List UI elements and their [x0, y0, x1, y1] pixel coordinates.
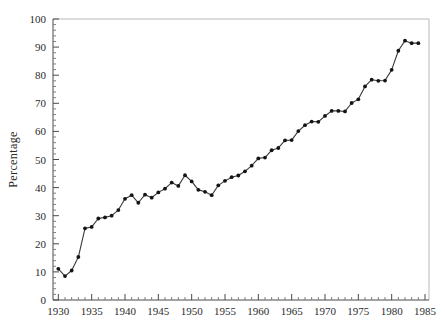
data-point	[210, 193, 214, 197]
data-point	[336, 109, 340, 113]
plot-frame	[53, 19, 429, 300]
y-tick-label: 20	[35, 238, 47, 250]
data-point	[143, 193, 147, 197]
y-tick-label: 10	[35, 266, 47, 278]
plot-background	[53, 19, 429, 300]
data-point	[156, 190, 160, 194]
data-point	[303, 123, 307, 127]
data-point	[356, 97, 360, 101]
data-point	[290, 138, 294, 142]
data-point	[163, 187, 167, 191]
data-point	[243, 169, 247, 173]
data-point	[403, 39, 407, 43]
data-point	[56, 267, 60, 271]
data-point	[376, 79, 380, 83]
data-point	[170, 181, 174, 185]
chart-canvas: 0102030405060708090100 19301935194019451…	[0, 0, 445, 330]
data-point	[103, 215, 107, 219]
y-tick-label: 50	[35, 154, 47, 166]
x-tick-label: 1960	[247, 305, 270, 317]
x-tick-label: 1980	[381, 305, 404, 317]
y-tick-label: 80	[35, 69, 47, 81]
data-point	[263, 156, 267, 160]
data-point	[130, 193, 134, 197]
data-point	[196, 188, 200, 192]
data-point	[396, 49, 400, 53]
data-point	[410, 41, 414, 45]
data-point	[310, 120, 314, 124]
y-tick-label: 90	[35, 41, 47, 53]
x-tick-label: 1970	[314, 305, 337, 317]
data-point	[296, 129, 300, 133]
x-tick-label: 1935	[81, 305, 104, 317]
y-tick-label: 30	[35, 210, 47, 222]
y-tick-label: 100	[30, 13, 47, 25]
data-point	[96, 217, 100, 221]
data-point	[330, 109, 334, 113]
data-point	[283, 138, 287, 142]
data-point	[83, 226, 87, 230]
data-point	[70, 269, 74, 273]
data-point	[316, 120, 320, 124]
y-tick-label: 0	[41, 294, 47, 306]
data-point	[270, 148, 274, 152]
x-tick-label: 1950	[181, 305, 204, 317]
data-point	[256, 156, 260, 160]
x-tick-label: 1965	[281, 305, 304, 317]
data-point	[136, 201, 140, 205]
data-point	[90, 225, 94, 229]
data-point	[350, 101, 354, 105]
data-point	[250, 164, 254, 168]
x-tick-label: 1940	[114, 305, 137, 317]
data-point	[323, 114, 327, 118]
x-tick-label: 1955	[214, 305, 237, 317]
y-axis-title: Percentage	[6, 131, 20, 188]
data-point	[110, 214, 114, 218]
x-tick-label: 1985	[414, 305, 437, 317]
line-chart-figure: 0102030405060708090100 19301935194019451…	[0, 0, 445, 330]
data-point	[390, 68, 394, 72]
data-point	[203, 190, 207, 194]
data-point	[176, 184, 180, 188]
data-point	[416, 41, 420, 45]
data-point	[76, 255, 80, 259]
data-point	[236, 174, 240, 178]
data-point	[63, 274, 67, 278]
x-tick-label: 1945	[147, 305, 170, 317]
data-point	[216, 183, 220, 187]
x-tick-label: 1975	[347, 305, 370, 317]
y-tick-label: 70	[35, 97, 47, 109]
y-tick-label: 60	[35, 125, 47, 137]
data-point	[123, 197, 127, 201]
y-tick-label: 40	[35, 182, 47, 194]
data-point	[383, 79, 387, 83]
x-tick-label: 1930	[47, 305, 70, 317]
data-point	[343, 110, 347, 114]
data-point	[276, 146, 280, 150]
data-point	[116, 208, 120, 212]
data-point	[363, 85, 367, 89]
data-point	[230, 175, 234, 179]
data-point	[370, 78, 374, 82]
data-point	[223, 179, 227, 183]
data-point	[183, 173, 187, 177]
data-point	[150, 196, 154, 200]
data-point	[190, 180, 194, 184]
